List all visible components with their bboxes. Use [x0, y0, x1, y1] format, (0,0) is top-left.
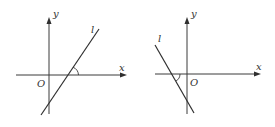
y-axis-arrow-icon [47, 17, 52, 24]
line-label: l [158, 33, 161, 44]
angle-arc [176, 74, 180, 81]
origin-label: O [37, 78, 45, 89]
x-axis-arrow-icon [120, 73, 127, 78]
line-label: l [91, 24, 94, 35]
y-axis-label: y [190, 8, 197, 19]
diagram-canvas: x y O l x y O l [0, 0, 275, 127]
origin-label: O [190, 77, 198, 88]
line-l [41, 29, 99, 115]
angle-arc [73, 67, 79, 75]
y-axis-label: y [52, 8, 59, 19]
x-axis-label: x [256, 61, 262, 72]
x-axis-label: x [119, 62, 125, 73]
figure-left: x y O l [16, 8, 127, 115]
line-l [155, 45, 194, 113]
figure-right: x y O l [155, 8, 262, 114]
x-axis-arrow-icon [254, 72, 261, 77]
y-axis-arrow-icon [185, 17, 190, 24]
